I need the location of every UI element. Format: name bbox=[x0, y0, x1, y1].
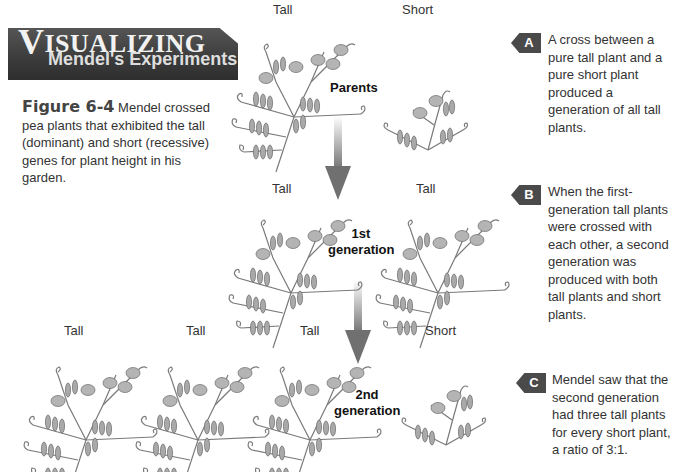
tall-plant-illustration bbox=[140, 345, 270, 455]
generation-label-parents: Parents bbox=[330, 80, 378, 96]
tall-plant-illustration bbox=[233, 198, 363, 353]
plant-label-parent-tall: Tall bbox=[273, 2, 293, 17]
generation-label-second: 2nd generation bbox=[334, 387, 400, 419]
plant-label-f2-short: Short bbox=[425, 323, 456, 338]
generation-label-first: 1st generation bbox=[328, 226, 394, 258]
plant-label-f2-tall-3: Tall bbox=[300, 323, 320, 338]
figure-label: Figure 6-4 bbox=[22, 97, 114, 116]
note-a: A cross between a pure tall plant and a … bbox=[548, 31, 670, 136]
tag-b: B bbox=[511, 185, 541, 205]
tag-c: C bbox=[516, 373, 546, 393]
plant-label-parent-short: Short bbox=[402, 2, 433, 17]
arrow-down-icon bbox=[325, 116, 351, 200]
plant-label-f1-tall-1: Tall bbox=[272, 181, 292, 196]
tall-plant-illustration bbox=[28, 345, 158, 455]
figure-caption: Figure 6-4 Mendel crossed pea plants tha… bbox=[22, 98, 218, 187]
note-b: When the first-generation tall plants we… bbox=[548, 183, 670, 323]
tag-a: A bbox=[511, 33, 541, 53]
plant-label-f1-tall-2: Tall bbox=[416, 181, 436, 196]
plant-label-f2-tall-2: Tall bbox=[186, 323, 206, 338]
plant-label-f2-tall-1: Tall bbox=[64, 323, 84, 338]
banner-subtitle: Mendel's Experiments bbox=[48, 50, 237, 68]
short-plant-illustration bbox=[388, 85, 478, 155]
note-c: Mendel saw that the second generation ha… bbox=[552, 371, 672, 459]
short-plant-illustration bbox=[406, 380, 496, 450]
cropped-body-text bbox=[0, 462, 673, 472]
